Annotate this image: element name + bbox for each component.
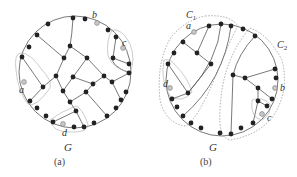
label-c: c xyxy=(122,37,127,48)
panel-a: a b c d G (a) xyxy=(16,9,134,168)
label-a: a xyxy=(19,84,24,95)
terminal-d xyxy=(61,122,66,127)
label-b: b xyxy=(92,9,97,20)
label-a: a xyxy=(186,20,191,31)
caption-a: (a) xyxy=(54,156,65,168)
graph-label-a: G xyxy=(64,141,72,153)
graph-label-b: G xyxy=(209,141,217,153)
panel-b: a b c d C1 C2 G (b) xyxy=(159,9,287,168)
label-b: b xyxy=(280,82,285,93)
terminal-a xyxy=(192,30,197,35)
terminal-c xyxy=(260,112,265,117)
label-c: c xyxy=(267,112,272,123)
figure: a b c d G (a) xyxy=(0,0,297,177)
label-d: d xyxy=(62,127,68,138)
label-c2: C2 xyxy=(277,39,288,52)
terminal-d xyxy=(168,86,173,91)
terminal-b xyxy=(95,21,100,26)
terminal-b xyxy=(273,86,278,91)
panel-a-terminal-outlines xyxy=(16,30,134,132)
caption-b: (b) xyxy=(200,156,212,168)
